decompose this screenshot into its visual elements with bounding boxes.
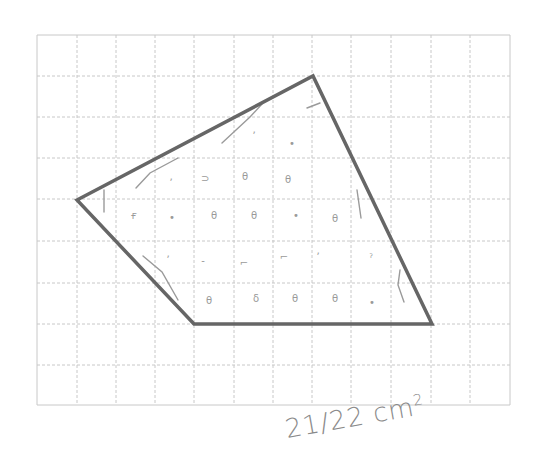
count-mark: δ [253, 293, 259, 304]
count-mark: θ [285, 174, 291, 185]
count-mark: θ [292, 293, 298, 304]
count-mark: ʼ [252, 130, 255, 141]
quadrilateral-shape [77, 76, 432, 324]
count-mark: ғ [131, 210, 137, 221]
worksheet-diagram: ʼ⊃θθʼ•ғ•θθ•θʼ‐⌐⌐ʼˀθδθθ• [0, 0, 537, 461]
count-mark: • [289, 138, 295, 149]
count-mark: ʼ [316, 251, 319, 262]
count-mark: θ [332, 213, 338, 224]
count-mark: θ [211, 210, 217, 221]
count-mark: ʼ [166, 254, 169, 265]
count-mark: ⌐ [280, 251, 288, 262]
count-mark: ⌐ [240, 257, 248, 268]
count-mark: θ [242, 171, 248, 182]
count-mark: • [369, 297, 375, 308]
count-mark: ˀ [369, 253, 373, 264]
count-mark: • [169, 212, 175, 223]
pencil-stroke [398, 270, 404, 302]
pencil-stroke [357, 190, 361, 218]
count-mark: ‐ [201, 255, 205, 266]
count-mark: ⊃ [201, 173, 209, 184]
count-mark: ʼ [169, 177, 172, 188]
dashed-grid [37, 35, 510, 405]
count-mark: θ [251, 210, 257, 221]
pencil-stroke [222, 104, 262, 143]
pencil-stroke [307, 103, 320, 108]
count-mark: • [293, 210, 299, 221]
count-mark: θ [332, 293, 338, 304]
count-mark: θ [206, 295, 212, 306]
